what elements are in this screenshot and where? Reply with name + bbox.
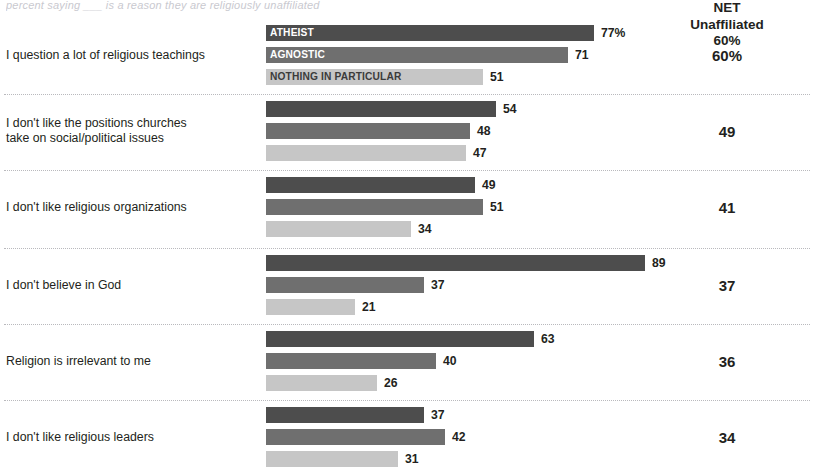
bar-value-label: 48 [477,124,491,138]
net-header-line1: NET [640,0,814,17]
chart-group: Religion is irrelevant to me63402636 [0,324,814,400]
bar-value-label: 26 [384,376,398,390]
category-label-line: I question a lot of religious teachings [6,48,258,63]
chart-group: I question a lot of religious teachingsA… [0,18,814,94]
category-label-line: I don't believe in God [6,278,258,293]
net-value: 37 [640,277,814,294]
category-label: I don't like the positions churchestake … [6,116,258,146]
net-value: 36 [640,353,814,370]
bar-value-label: 51 [490,200,504,214]
bar-value-label: 37 [431,408,445,422]
category-label: Religion is irrelevant to me [6,354,258,369]
bar-chart: percent saying ___ is a reason they are … [0,0,814,474]
series-label: ATHEIST [270,26,314,40]
bar-agnostic [266,429,445,445]
chart-group: I don't like religious leaders37423134 [0,400,814,474]
category-label-line: Religion is irrelevant to me [6,354,258,369]
bar-value-label: 37 [431,278,445,292]
bar-atheist [266,255,645,271]
net-value: 34 [640,429,814,446]
group-divider [4,170,810,172]
bar-nothing-in-particular [266,145,466,161]
bar-atheist [266,331,534,347]
category-label-line: take on social/political issues [6,131,258,146]
group-divider [4,248,810,250]
bar-atheist [266,407,424,423]
bar-value-label: 71 [575,48,589,62]
net-value: 60% [640,47,814,64]
category-label-line: I don't like the positions churches [6,116,258,131]
bar-agnostic [266,199,483,215]
bar-nothing-in-particular [266,221,411,237]
bar-agnostic [266,123,470,139]
bar-atheist [266,177,475,193]
category-label: I don't like religious organizations [6,200,258,215]
bar-value-label: 89 [652,256,666,270]
chart-group: I don't like religious organizations4951… [0,170,814,246]
bar-value-label: 49 [482,178,496,192]
bar-value-label: 31 [405,452,419,466]
series-label: AGNOSTIC [270,48,325,62]
category-label: I don't believe in God [6,278,258,293]
bar-nothing-in-particular [266,451,398,467]
bar-value-label: 54 [503,102,517,116]
series-label: NOTHING IN PARTICULAR [270,70,401,84]
bar-value-label: 34 [418,222,432,236]
net-value: 49 [640,123,814,140]
bar-value-label: 77% [601,26,625,40]
category-label: I question a lot of religious teachings [6,48,258,63]
net-value: 41 [640,199,814,216]
bar-atheist [266,25,594,41]
group-divider [4,324,810,326]
chart-group: I don't like the positions churchestake … [0,94,814,170]
category-label-line: I don't like religious organizations [6,200,258,215]
group-divider [4,94,810,96]
bar-value-label: 47 [473,146,487,160]
bar-agnostic [266,277,424,293]
bar-value-label: 63 [541,332,555,346]
bar-value-label: 51 [490,70,504,84]
bar-value-label: 42 [452,430,466,444]
bar-agnostic [266,353,436,369]
chart-group: I don't believe in God89372137 [0,248,814,324]
category-label: I don't like religious leaders [6,430,258,445]
bar-atheist [266,101,496,117]
group-divider [4,400,810,402]
bar-value-label: 21 [362,300,376,314]
bar-value-label: 40 [443,354,457,368]
bar-nothing-in-particular [266,299,355,315]
category-label-line: I don't like religious leaders [6,430,258,445]
bar-nothing-in-particular [266,375,377,391]
